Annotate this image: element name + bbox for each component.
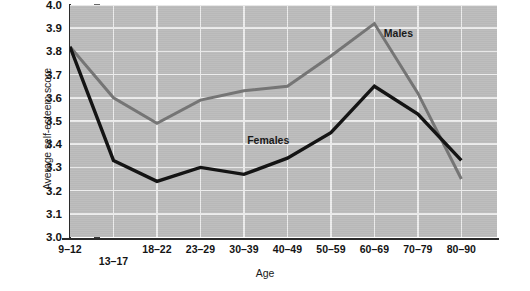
- x-tick-label: 18–22: [142, 243, 171, 255]
- y-tick-label: 3.3: [30, 161, 62, 173]
- y-tick-label: 3.5: [30, 115, 62, 127]
- x-tick-label: 70–79: [403, 243, 432, 255]
- y-tick-label: 3.4: [30, 138, 62, 150]
- y-tick-label: 3.0: [30, 231, 62, 243]
- y-tick-label: 3.6: [30, 92, 62, 104]
- y-tick-label: 3.8: [30, 45, 62, 57]
- series-lines: [70, 5, 497, 237]
- y-tick-label: 3.9: [30, 22, 62, 34]
- x-tick-label: 23–29: [186, 243, 215, 255]
- x-tick-label: 60–69: [360, 243, 389, 255]
- x-axis-line: [62, 238, 499, 240]
- x-axis-title: Age: [0, 267, 530, 279]
- x-tick-label: 80–90: [447, 243, 476, 255]
- chart-figure: Average self-esteem score 3.03.13.23.33.…: [0, 0, 530, 291]
- y-tick-label: 4.0: [30, 0, 62, 11]
- x-tick-label: 50–59: [316, 243, 345, 255]
- x-tick-label: 40–49: [273, 243, 302, 255]
- series-line-males: [70, 24, 461, 179]
- y-tick-label: 3.7: [30, 69, 62, 81]
- plot-area: [70, 5, 497, 237]
- x-tick-label: 9–12: [58, 243, 81, 255]
- series-label-males: Males: [384, 27, 413, 39]
- series-label-females: Females: [247, 134, 289, 146]
- y-tick-label: 3.2: [30, 185, 62, 197]
- y-tick-label: 3.1: [30, 208, 62, 220]
- y-axis-ticks: 3.03.13.23.33.43.53.63.73.83.94.0: [30, 0, 62, 291]
- x-tick-label: 30–39: [229, 243, 258, 255]
- x-tick-label: 13–17: [99, 255, 128, 267]
